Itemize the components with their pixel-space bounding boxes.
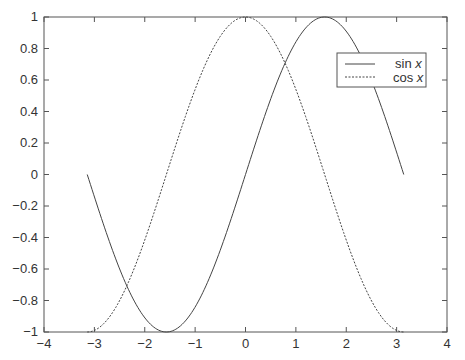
x-tick-label: 2 [343,336,350,351]
x-tick-label: 1 [292,336,299,351]
y-tick-labels: −1−0.8−0.6−0.4−0.200.20.40.60.81 [12,9,38,339]
y-tick-label: −0.6 [12,261,38,276]
x-tick-labels: −4−3−2−101234 [37,336,451,351]
y-tick-label: −1 [23,324,38,339]
y-tick-label: −0.4 [12,230,38,245]
y-tick-label: 0.8 [20,41,38,56]
y-tick-label: 0 [31,167,38,182]
y-tick-label: 0.6 [20,72,38,87]
legend-label-cos: cos x [393,70,424,85]
y-tick-label: 1 [31,9,38,24]
legend-label-sin: sin x [395,56,422,71]
x-tick-label: 4 [443,336,450,351]
y-tick-label: 0.4 [20,104,38,119]
y-tick-label: −0.2 [12,198,38,213]
x-tick-label: −1 [188,336,203,351]
x-tick-label: 3 [393,336,400,351]
x-tick-label: −4 [37,336,52,351]
y-tick-label: −0.8 [12,293,38,308]
x-tick-label: −2 [137,336,152,351]
x-tick-label: −3 [87,336,102,351]
y-tick-label: 0.2 [20,135,38,150]
x-tick-label: 0 [242,336,249,351]
legend: sin x cos x [337,53,426,87]
chart: −4−3−2−101234 −1−0.8−0.6−0.4−0.200.20.40… [0,0,465,360]
